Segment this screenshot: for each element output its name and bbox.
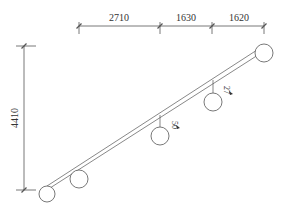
dim-label-1630: 1630 (176, 12, 196, 23)
cable-diagram: 2710 1630 1620 4410 50 27 (0, 0, 286, 211)
cable-lines (47, 50, 258, 188)
node-circle (204, 93, 222, 111)
node-circle (255, 44, 273, 62)
node-circle (70, 170, 88, 188)
dim-label-4410: 4410 (9, 108, 20, 128)
horizontal-dimension (77, 22, 267, 34)
dim-label-1620: 1620 (229, 12, 249, 23)
node-circle (39, 186, 55, 202)
node-circle (151, 127, 169, 145)
dim-label-2710: 2710 (109, 12, 129, 23)
